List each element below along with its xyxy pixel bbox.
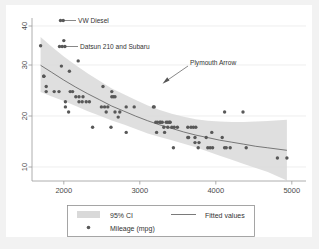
data-point [77, 59, 80, 62]
x-tick-label-3000: 3000 [131, 186, 148, 195]
data-point [166, 126, 169, 129]
data-point [105, 110, 108, 113]
data-point [197, 141, 200, 144]
data-point [187, 136, 190, 139]
data-point [62, 39, 65, 42]
data-point [103, 105, 106, 108]
data-point [197, 146, 200, 149]
data-point [153, 105, 156, 108]
data-point [169, 121, 172, 124]
y-tick-label-10: 10 [20, 163, 29, 171]
chart-legend: 95% CI Fitted values Mileage (mpg) [68, 206, 255, 237]
ci-band-95 [41, 37, 287, 181]
data-point [53, 90, 56, 93]
data-point [67, 110, 70, 113]
data-point [42, 75, 45, 78]
data-point [71, 90, 74, 93]
data-point [100, 105, 103, 108]
data-point [205, 136, 208, 139]
data-point [77, 100, 80, 103]
data-point [74, 95, 77, 98]
annotation-arrow-line [166, 66, 189, 82]
data-point [173, 126, 176, 129]
data-point [229, 146, 232, 149]
annotation-vw-diesel: VW Diesel [59, 17, 110, 24]
data-point [64, 100, 67, 103]
data-point [118, 110, 121, 113]
data-point [68, 70, 71, 73]
data-point [81, 100, 84, 103]
data-point [113, 95, 116, 98]
annotation-datsun-subaru: Datsun 210 and Subaru [58, 43, 150, 50]
data-point [186, 126, 189, 129]
data-point [91, 126, 94, 129]
data-point [221, 136, 224, 139]
legend-label-ci: 95% CI [110, 212, 133, 219]
x-tick-label-4000: 4000 [207, 186, 224, 195]
data-point [176, 126, 179, 129]
data-point [161, 121, 164, 124]
data-point [110, 90, 113, 93]
data-point [276, 156, 279, 159]
data-point [162, 126, 165, 129]
data-point [211, 146, 214, 149]
legend-label-mileage: Mileage (mpg) [110, 225, 155, 233]
annotation-label-vw-diesel: VW Diesel [78, 17, 109, 24]
data-point [45, 90, 48, 93]
annotation-arrow-head [163, 77, 170, 84]
data-point [155, 131, 158, 134]
data-point [106, 105, 109, 108]
data-point [113, 110, 116, 113]
screenshot-root: 40 30 20 10 2000 3000 4000 5000 VW Diese… [0, 0, 319, 249]
legend-swatch-ci [77, 211, 100, 218]
data-point [45, 85, 48, 88]
data-point [133, 105, 136, 108]
annotation-label-datsun-subaru: Datsun 210 and Subaru [80, 43, 150, 50]
data-point [39, 44, 42, 47]
data-point [85, 100, 88, 103]
data-point [225, 146, 228, 149]
data-point [245, 146, 248, 149]
data-point [163, 131, 166, 134]
y-tick-label-20: 20 [20, 112, 29, 120]
data-point [117, 115, 120, 118]
data-point [60, 64, 63, 67]
annotation-label-plymouth-arrow: Plymouth Arrow [190, 59, 236, 67]
data-point [125, 131, 128, 134]
data-point [81, 95, 84, 98]
data-point [210, 131, 213, 134]
legend-marker-mileage [87, 226, 91, 230]
y-tick-label-40: 40 [20, 22, 29, 30]
y-tick-label-30: 30 [20, 61, 29, 69]
data-point [64, 105, 67, 108]
data-point [109, 126, 112, 129]
data-point [101, 85, 104, 88]
annotation-plymouth-arrow: Plymouth Arrow [163, 59, 237, 84]
data-point [223, 110, 226, 113]
data-point [285, 156, 288, 159]
data-point [194, 126, 197, 129]
y-tick-labels: 40 30 20 10 [20, 22, 29, 171]
data-point [241, 110, 244, 113]
data-point [193, 136, 196, 139]
data-point [172, 146, 175, 149]
data-point [193, 141, 196, 144]
data-point [88, 100, 91, 103]
x-tick-label-5000: 5000 [283, 186, 300, 195]
data-point [125, 105, 128, 108]
x-tick-labels: 2000 3000 4000 5000 [55, 186, 300, 195]
data-point [57, 90, 60, 93]
legend-label-fitted: Fitted values [205, 212, 245, 219]
x-tick-label-2000: 2000 [55, 186, 72, 195]
mileage-vs-weight-chart: 40 30 20 10 2000 3000 4000 5000 VW Diese… [0, 0, 319, 249]
legend-box [68, 206, 255, 237]
data-point [77, 95, 80, 98]
